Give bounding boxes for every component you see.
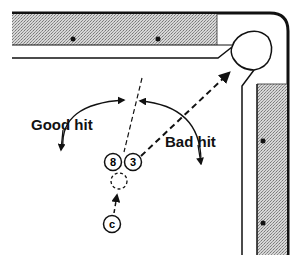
cue-path [114,195,117,213]
pool-shot-diagram: 8 3 c Good hit Bad hit [0,0,306,255]
diamond-marker [71,37,76,42]
cue-ball: c [104,216,121,233]
ball-3: 3 [125,154,142,171]
ball-8: 8 [105,154,122,171]
diamond-marker [261,139,266,144]
diamond-marker [261,221,266,226]
good-hit-label: Good hit [31,116,93,133]
ghost-ball [111,173,127,189]
svg-text:c: c [109,218,115,230]
aim-line [124,78,142,152]
svg-text:3: 3 [130,156,136,168]
diamond-marker [156,37,161,42]
bad-hit-label: Bad hit [165,133,216,150]
corner-pocket [231,31,271,70]
svg-text:8: 8 [110,156,116,168]
